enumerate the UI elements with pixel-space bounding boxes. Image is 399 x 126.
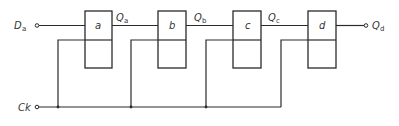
clock-feed-d	[281, 40, 308, 107]
junction-dot	[130, 106, 133, 109]
output-d-label: Q	[372, 20, 380, 31]
clock-input-label: Ck	[18, 102, 32, 113]
clock-input-terminal	[35, 105, 39, 109]
output-b-subscript: b	[202, 17, 207, 25]
output-a-label: Q	[116, 12, 124, 23]
data-input-terminal	[35, 24, 39, 28]
clock-feed-c	[206, 40, 233, 107]
clock-feed-b	[131, 40, 158, 107]
data-input-label: D	[14, 20, 22, 31]
data-input-subscript: a	[22, 25, 26, 33]
data-input: D a	[14, 20, 85, 33]
shift-register-diagram: D a Ck a Q a b Q b c Q c	[0, 0, 399, 126]
flip-flop-d-label: d	[319, 20, 326, 31]
clock-feed-a	[58, 40, 85, 107]
junction-dot	[57, 106, 60, 109]
output-d-terminal	[364, 24, 368, 28]
flip-flop-c-label: c	[245, 20, 251, 31]
output-c-label: Q	[268, 12, 276, 23]
junction-dot	[205, 106, 208, 109]
output-d-subscript: d	[380, 25, 384, 33]
output-c-subscript: c	[276, 17, 280, 25]
flip-flop-b-label: b	[169, 20, 175, 31]
flip-flop-a-label: a	[95, 20, 101, 31]
output-a-subscript: a	[124, 17, 128, 25]
output-b-label: Q	[194, 12, 202, 23]
